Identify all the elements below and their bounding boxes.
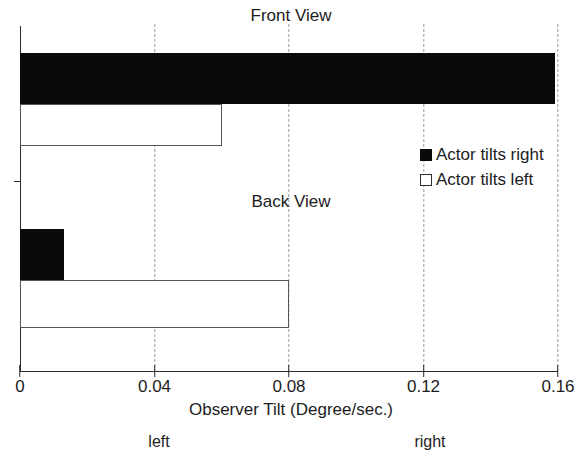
x-axis-title: Observer Tilt (Degree/sec.)	[189, 400, 393, 420]
xtick-mark-0.08	[288, 365, 289, 377]
panel-title-back-view: Back View	[251, 192, 330, 212]
xtick-mark-0.12	[423, 365, 424, 377]
gridline-0.16	[557, 24, 558, 372]
xtick-mark-0	[19, 365, 20, 377]
y-axis-tick	[14, 181, 21, 182]
legend-label-actor-tilts-left: Actor tilts left	[436, 170, 533, 190]
xtick-label-0.12: 0.12	[407, 377, 440, 397]
legend-label-actor-tilts-right: Actor tilts right	[436, 145, 544, 165]
plot-area: Front View Back View 0 0.04 0.08 0.12 0.…	[0, 0, 583, 400]
bar-front-actor-tilts-left	[20, 104, 222, 146]
legend-item-actor-tilts-left: Actor tilts left	[420, 167, 544, 192]
xtick-mark-0.16	[557, 365, 558, 377]
bar-front-actor-tilts-right	[20, 53, 555, 104]
legend-swatch-filled-icon	[420, 149, 432, 161]
bar-chart-figure: Front View Back View 0 0.04 0.08 0.12 0.…	[0, 0, 583, 469]
bar-back-actor-tilts-left	[20, 280, 289, 328]
legend: Actor tilts right Actor tilts left	[420, 142, 544, 192]
xtick-label-0: 0	[15, 377, 24, 397]
xtick-label-0.04: 0.04	[138, 377, 171, 397]
xtick-label-0.08: 0.08	[272, 377, 305, 397]
bar-back-actor-tilts-right	[20, 229, 64, 280]
panel-title-front-view: Front View	[251, 6, 332, 26]
direction-note-right: right	[414, 432, 445, 451]
xtick-label-0.16: 0.16	[541, 377, 574, 397]
legend-swatch-hollow-icon	[420, 174, 432, 186]
xtick-mark-0.04	[154, 365, 155, 377]
direction-note-left: left	[148, 432, 169, 451]
legend-item-actor-tilts-right: Actor tilts right	[420, 142, 544, 167]
